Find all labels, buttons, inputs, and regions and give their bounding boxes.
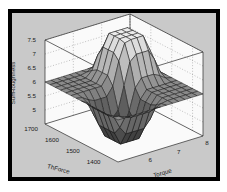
y-tick-label: 1400 [87,158,101,165]
surface-plot: 678140015001600170055.566.577.5TorqueThF… [0,0,227,192]
y-axis-label: ThForce [47,162,72,175]
x-axis-label: Torque [152,166,173,178]
z-tick-label: 6.5 [27,64,36,71]
z-tick-label: 7 [33,50,37,57]
y-tick-label: 1700 [24,125,38,132]
z-axis-label: SurfRoughness [9,62,16,105]
z-tick-label: 5.5 [27,92,36,99]
y-tick-label: 1500 [66,147,80,154]
x-tick-label: 7 [177,148,181,155]
z-tick-label: 7.5 [27,36,36,43]
x-tick-label: 6 [149,156,153,163]
z-tick-label: 6 [33,78,37,85]
x-tick-label: 8 [205,139,209,146]
y-tick-label: 1600 [45,136,59,143]
z-axis-tick-labels: 55.566.577.5 [27,36,36,113]
z-tick-label: 5 [33,106,37,113]
